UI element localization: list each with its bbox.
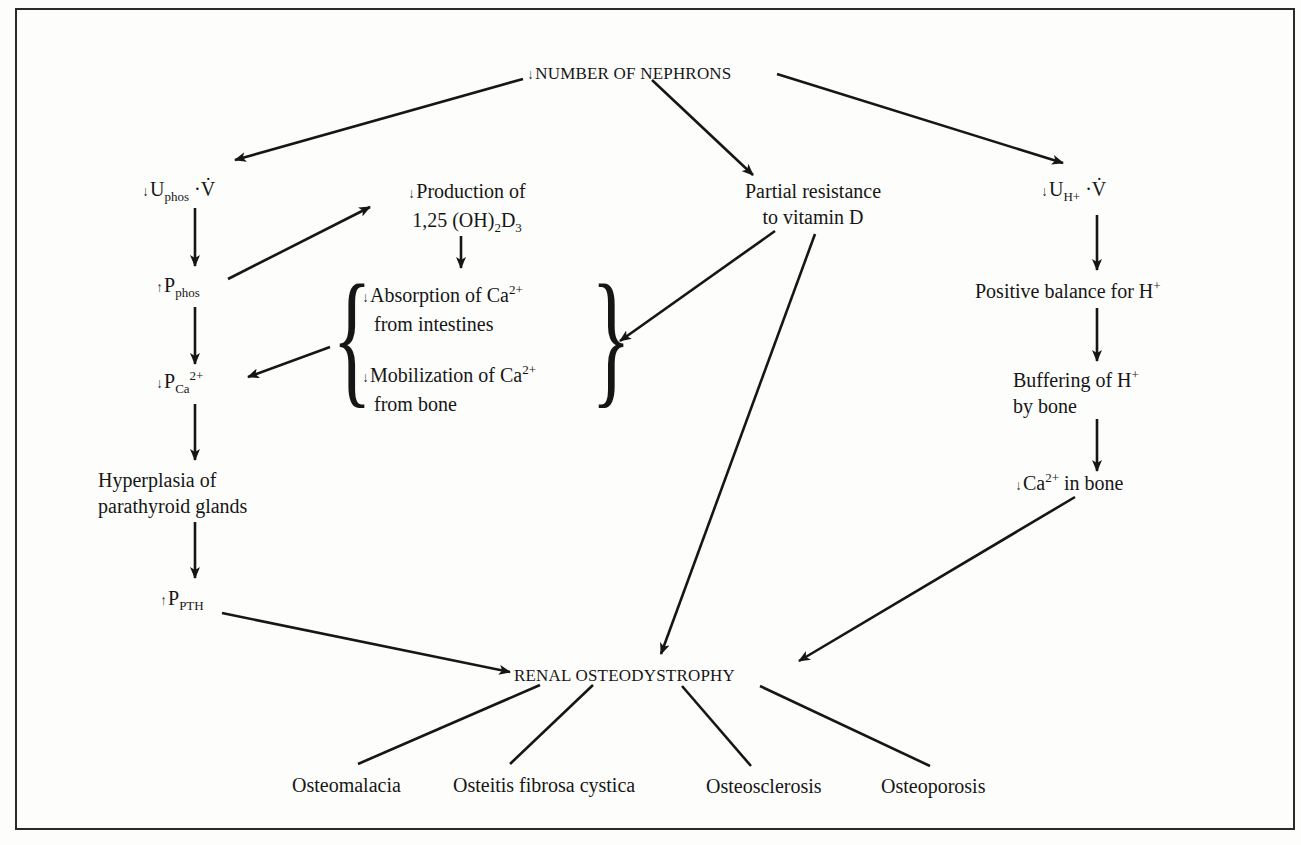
- arrow-nephrons-to-uphos: [235, 79, 523, 160]
- node-positive-acid-balance: Positive balance for H+: [975, 278, 1161, 304]
- arrow-nephrons-to-resistance: [652, 80, 753, 175]
- node-plasma-phosphate: ↑Pphos: [156, 272, 200, 301]
- node-urine-phosphate: ↓Uphos ·V̇: [142, 176, 215, 205]
- increase-arrow-icon: ↑: [157, 275, 163, 301]
- node-plasma-pth: ↑PPTH: [160, 585, 204, 614]
- node-renal-osteodystrophy: RENAL OSTEODYSTROPHY: [514, 663, 735, 689]
- node-vitamin-d-resistance: Partial resistance to vitamin D: [738, 178, 888, 230]
- increase-arrow-icon: ↑: [161, 588, 167, 614]
- node-plasma-calcium: ↓PCa2+: [156, 368, 203, 397]
- node-bone-buffering: Buffering of H+ by bone: [1013, 367, 1139, 419]
- decrease-arrow-icon: ↓: [1016, 473, 1022, 499]
- node-bone-mobilization: ↓Mobilization of Ca2+ from bone: [362, 362, 536, 417]
- decrease-arrow-icon: ↓: [363, 285, 369, 311]
- decrease-arrow-icon: ↓: [143, 179, 149, 205]
- node-parathyroid-hyperplasia: Hyperplasia of parathyroid glands: [98, 467, 247, 519]
- line-outcome-to-osteosclerosis: [682, 686, 751, 766]
- subtype-osteoporosis: Osteoporosis: [881, 773, 985, 799]
- decrease-arrow-icon: ↓: [528, 62, 534, 88]
- node-intestinal-absorption: ↓Absorption of Ca2+ from intestines: [362, 282, 523, 337]
- subtype-osteomalacia: Osteomalacia: [292, 772, 401, 798]
- node-calcitriol-production: ↓Production of 1,25 (OH)2D3: [382, 178, 552, 233]
- node-number-of-nephrons: ↓NUMBER OF NEPHRONS: [527, 61, 732, 88]
- line-outcome-to-osteitis: [510, 685, 593, 764]
- arrow-resistance-to-brace: [620, 231, 775, 341]
- node-urine-acid-excretion: ↓UH+ ·V̇: [1041, 176, 1106, 205]
- decrease-arrow-icon: ↓: [409, 181, 415, 207]
- decrease-arrow-icon: ↓: [1042, 179, 1048, 205]
- line-outcome-to-osteoporosis: [760, 686, 930, 766]
- subtype-osteosclerosis: Osteosclerosis: [706, 773, 822, 799]
- line-outcome-to-osteomalacia: [358, 685, 540, 764]
- subtype-osteitis-fibrosa-cystica: Osteitis fibrosa cystica: [453, 772, 635, 798]
- arrow-ppth-to-outcome: [222, 613, 510, 672]
- node-bone-calcium: ↓Ca2+ in bone: [1015, 470, 1124, 499]
- decrease-arrow-icon: ↓: [157, 371, 163, 397]
- decrease-arrow-icon: ↓: [363, 365, 369, 391]
- connector-layer: [0, 0, 1301, 845]
- arrow-brace-to-pca: [248, 347, 330, 377]
- arrow-cabone-to-outcome: [799, 497, 1075, 661]
- arrow-nephrons-to-uh: [777, 74, 1063, 163]
- right-brace-icon: }: [591, 262, 631, 412]
